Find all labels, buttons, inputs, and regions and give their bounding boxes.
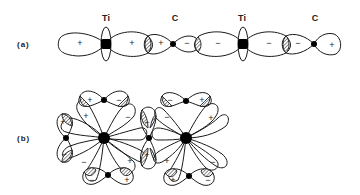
- atom-label-ti-1: Ti: [102, 13, 110, 23]
- sign: −: [61, 149, 66, 159]
- sign: −: [144, 117, 149, 127]
- sign: +: [158, 38, 163, 48]
- panel-b: (b) +: [17, 91, 228, 185]
- c-atom: [170, 41, 176, 47]
- sign: −: [215, 38, 220, 48]
- ti-atom: [238, 39, 248, 49]
- c-atom: [63, 135, 69, 141]
- sign: −: [89, 175, 94, 185]
- overlap-region: [145, 36, 151, 53]
- c-atom: [311, 41, 317, 47]
- sign: −: [266, 38, 271, 48]
- c-atom: [186, 173, 192, 179]
- c-atom: [183, 98, 189, 104]
- overlap-region: [283, 36, 289, 53]
- sign: −: [295, 38, 300, 48]
- sign: +: [129, 38, 134, 48]
- panel-a-label: (a): [17, 40, 30, 49]
- sign: +: [170, 175, 175, 185]
- panel-a: (a) Ti C Ti C + + + − − −: [17, 13, 341, 61]
- ti-atom: [98, 132, 110, 144]
- sign: +: [144, 150, 149, 160]
- sign: −: [205, 175, 210, 185]
- ti-atom: [101, 39, 111, 49]
- sign: −: [184, 38, 189, 48]
- sign: +: [87, 95, 92, 105]
- panel-b-label: (b): [17, 134, 30, 143]
- sign: −: [167, 95, 172, 105]
- sign: −: [164, 112, 169, 122]
- sign: −: [210, 157, 215, 167]
- sign: +: [124, 175, 129, 185]
- sign: −: [116, 95, 121, 105]
- c-atom: [101, 97, 107, 103]
- orbital-diagram: (a) Ti C Ti C + + + − − −: [0, 0, 360, 195]
- sign: −: [81, 157, 86, 167]
- ti-atom: [180, 132, 192, 144]
- atom-label-c-2: C: [312, 13, 319, 23]
- atom-label-ti-2: Ti: [238, 13, 246, 23]
- atom-label-c-1: C: [172, 13, 179, 23]
- sign: +: [77, 38, 82, 48]
- sign: +: [127, 156, 132, 166]
- sign: +: [199, 95, 204, 105]
- overlap-region: [195, 37, 201, 52]
- sign: +: [329, 40, 334, 50]
- sign: −: [125, 112, 130, 122]
- sign: +: [164, 156, 169, 166]
- c-atom: [146, 135, 152, 141]
- c-atom: [105, 172, 111, 178]
- sign: +: [208, 113, 213, 123]
- sign: +: [60, 117, 65, 127]
- sign: +: [83, 111, 88, 121]
